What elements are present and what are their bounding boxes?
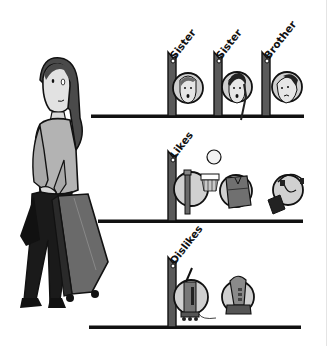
hair-dryer-item — [222, 276, 254, 314]
basketball-hoop-item — [174, 170, 219, 214]
shelf-line — [91, 115, 304, 119]
tag-label: Sister — [213, 26, 244, 61]
tag-label: Sister — [167, 26, 198, 61]
tag-label: Dislikes — [167, 223, 205, 267]
face-sister-2 — [222, 72, 252, 120]
girl-with-suitcase — [20, 58, 108, 308]
shelf-likes: Likes — [98, 129, 304, 223]
vacuum-cleaner-item — [174, 268, 216, 321]
shelf-line — [98, 220, 303, 224]
shelf-line — [89, 326, 301, 330]
ball-item — [207, 150, 221, 164]
face-sister-1 — [173, 73, 203, 103]
face-brother — [272, 72, 302, 103]
shelf-dislikes: Dislikes — [89, 223, 301, 329]
tag-label: Likes — [167, 129, 195, 160]
social-story-illustration: Sister Sister Brother — [0, 0, 332, 346]
shelf-family: Sister Sister Brother — [91, 18, 304, 120]
backpack-item — [220, 175, 252, 208]
headphones-item — [268, 174, 304, 214]
tag-label: Brother — [261, 18, 299, 62]
